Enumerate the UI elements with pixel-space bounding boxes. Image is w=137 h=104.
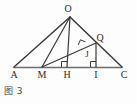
vertex-label-J: J [85, 49, 89, 59]
segment-side-OA [14, 17, 70, 67]
vertex-label-A: A [10, 69, 18, 80]
segment-altitude-OH [67, 17, 70, 67]
figure-caption: 图 3 [4, 84, 23, 97]
geometry-figure: O A M H I C Q J 图 3 [0, 0, 137, 104]
right-angle-mark-at-H [62, 62, 68, 68]
vertex-label-M: M [38, 69, 47, 80]
vertex-label-I: I [94, 69, 97, 80]
right-angle-mark-at-J [78, 40, 85, 45]
segment-cevian-OM [42, 17, 70, 67]
vertex-label-C: C [121, 69, 128, 80]
vertex-label-H: H [63, 69, 70, 80]
vertex-label-O: O [64, 3, 71, 14]
vertex-label-Q: Q [96, 32, 104, 43]
right-angle-mark-at-I [91, 62, 97, 68]
